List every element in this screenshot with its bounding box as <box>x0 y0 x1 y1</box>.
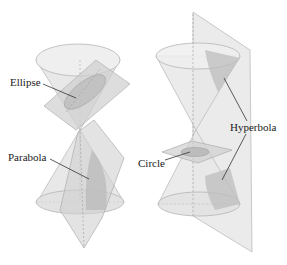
label-circle: Circle <box>138 157 165 169</box>
parabola-plane <box>60 120 124 248</box>
label-parabola: Parabola <box>8 151 47 163</box>
label-ellipse: Ellipse <box>10 76 41 88</box>
right-figure: Circle Hyperbola <box>138 12 277 252</box>
label-hyperbola: Hyperbola <box>230 121 277 133</box>
conic-sections-diagram: Ellipse Parabola Circle <box>0 0 287 265</box>
left-figure: Ellipse Parabola <box>8 44 130 248</box>
